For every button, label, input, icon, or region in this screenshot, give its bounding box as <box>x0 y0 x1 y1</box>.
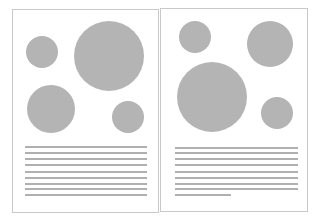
text-placeholder-line <box>175 171 298 173</box>
text-placeholder-line <box>25 194 147 196</box>
image-placeholder-circle <box>247 21 293 67</box>
text-placeholder-line <box>175 177 298 179</box>
text-placeholder-line <box>25 171 147 173</box>
text-placeholder-line <box>25 146 147 148</box>
text-placeholder-line <box>25 164 147 166</box>
text-placeholder-line <box>175 194 231 196</box>
text-placeholder-line <box>175 188 298 190</box>
image-placeholder-circle <box>261 97 293 129</box>
text-placeholder-line <box>25 152 147 154</box>
text-placeholder-line <box>25 188 147 190</box>
text-placeholder-line <box>25 158 147 160</box>
image-placeholder-circle <box>26 36 58 68</box>
text-placeholder-line <box>175 183 298 185</box>
image-placeholder-circle <box>112 101 144 133</box>
image-placeholder-circle <box>179 21 211 53</box>
image-placeholder-circle <box>74 21 144 91</box>
text-placeholder-line <box>25 183 147 185</box>
text-placeholder-line <box>25 177 147 179</box>
text-placeholder-line <box>175 147 298 149</box>
image-placeholder-circle <box>177 62 247 132</box>
text-placeholder-line <box>175 152 298 154</box>
text-placeholder-line <box>175 164 298 166</box>
image-placeholder-circle <box>27 85 75 133</box>
text-placeholder-line <box>175 158 298 160</box>
